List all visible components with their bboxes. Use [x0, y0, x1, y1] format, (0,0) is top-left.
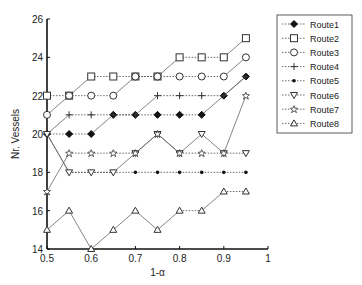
y-tick-label: 18	[32, 167, 44, 178]
series-route4	[44, 73, 250, 138]
chart: 0.50.60.70.80.91141618202224261-αNr. Ves…	[0, 0, 362, 285]
legend-item: Route4	[310, 62, 339, 72]
series-route3	[44, 54, 250, 119]
legend-item: Route1	[310, 20, 339, 30]
y-tick-label: 20	[32, 129, 44, 140]
y-tick-label: 24	[32, 52, 44, 63]
y-tick-label: 14	[32, 244, 44, 255]
series-route2	[44, 35, 250, 100]
series-route8	[44, 188, 250, 252]
legend: Route1Route2Route3Route4Route5Route6Rout…	[277, 15, 352, 133]
y-tick-label: 26	[32, 14, 44, 25]
x-tick-label: 0.8	[173, 253, 187, 264]
x-tick-label: 0.7	[128, 253, 142, 264]
y-axis-label: Nr. Vessels	[10, 109, 21, 159]
series-route7	[44, 92, 250, 195]
x-tick-label: 0.6	[84, 253, 98, 264]
legend-item: Route8	[310, 119, 339, 129]
y-tick-label: 16	[32, 206, 44, 217]
x-tick-label: 0.9	[217, 253, 231, 264]
series-route6	[44, 132, 250, 176]
legend-item: Route7	[310, 105, 339, 115]
legend-item: Route6	[310, 91, 339, 101]
x-axis-label: 1-α	[150, 267, 165, 278]
y-tick-label: 22	[32, 91, 44, 102]
x-tick-label: 1	[265, 253, 271, 264]
legend-item: Route2	[310, 34, 339, 44]
line-chart: 0.50.60.70.80.91141618202224261-αNr. Ves…	[0, 0, 362, 285]
legend-item: Route3	[310, 48, 339, 58]
legend-item: Route5	[310, 76, 339, 86]
